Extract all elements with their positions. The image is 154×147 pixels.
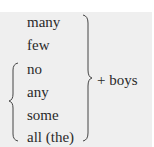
word-any: any — [27, 84, 49, 100]
left-curly-brace-icon — [8, 62, 20, 142]
word-no: no — [27, 61, 42, 77]
right-curly-brace-icon — [82, 14, 94, 142]
word-all-the: all (the) — [27, 129, 74, 145]
word-some: some — [27, 107, 59, 123]
word-few: few — [27, 37, 50, 53]
word-many: many — [27, 14, 60, 30]
result-label: + boys — [97, 72, 138, 88]
